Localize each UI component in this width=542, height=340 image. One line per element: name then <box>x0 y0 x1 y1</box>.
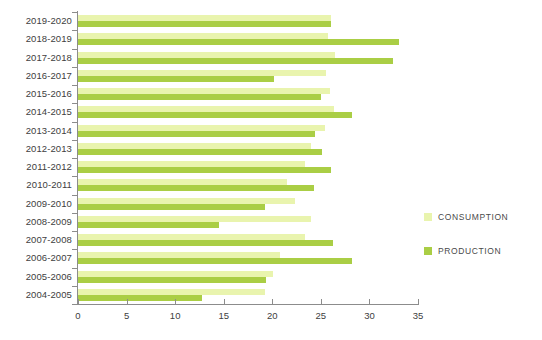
y-axis-label-2008-2009: 2008-2009 <box>0 217 72 227</box>
y-axis-tick <box>72 122 77 123</box>
y-axis-label-2012-2013: 2012-2013 <box>0 144 72 154</box>
y-axis-category-labels: 2019-20202018-20192017-20182016-20172015… <box>0 12 72 304</box>
x-axis-tick <box>321 299 322 305</box>
y-axis-tick <box>72 231 77 232</box>
y-axis-tick <box>72 30 77 31</box>
y-axis-label-2018-2019: 2018-2019 <box>0 34 72 44</box>
x-axis-tick <box>369 299 370 305</box>
legend-item-production[interactable]: PRODUCTION <box>424 246 538 256</box>
y-axis-label-2009-2010: 2009-2010 <box>0 199 72 209</box>
y-axis-tick <box>72 85 77 86</box>
bar-production-2006-2007 <box>78 258 352 264</box>
y-axis-tick <box>72 67 77 68</box>
legend-label-consumption: CONSUMPTION <box>438 212 508 222</box>
x-axis-tick <box>224 299 225 305</box>
y-axis-tick <box>72 213 77 214</box>
x-axis-tick <box>127 299 128 305</box>
x-axis-tick <box>78 299 79 305</box>
bar-production-2018-2019 <box>78 39 399 45</box>
y-axis-tick <box>72 249 77 250</box>
y-axis-label-2015-2016: 2015-2016 <box>0 89 72 99</box>
plot-area <box>78 12 418 304</box>
y-axis-label-2016-2017: 2016-2017 <box>0 71 72 81</box>
y-axis-tick <box>72 158 77 159</box>
bar-chart: 2019-20202018-20192017-20182016-20172015… <box>0 0 542 340</box>
bar-production-2008-2009 <box>78 222 219 228</box>
y-axis-label-2014-2015: 2014-2015 <box>0 107 72 117</box>
y-axis-label-2010-2011: 2010-2011 <box>0 180 72 190</box>
y-axis-tick <box>72 140 77 141</box>
y-axis-tick <box>72 176 77 177</box>
x-axis-tick-label: 20 <box>257 310 287 321</box>
x-axis-tick-label: 5 <box>112 310 142 321</box>
bar-production-2005-2006 <box>78 277 266 283</box>
x-axis-tick-label: 30 <box>354 310 384 321</box>
chart-legend: CONSUMPTION PRODUCTION <box>424 212 538 280</box>
y-axis-tick <box>72 195 77 196</box>
y-axis-label-2007-2008: 2007-2008 <box>0 235 72 245</box>
y-axis-tick <box>72 103 77 104</box>
x-axis-tick-label: 15 <box>209 310 239 321</box>
x-axis-line <box>77 304 419 305</box>
bar-production-2012-2013 <box>78 149 322 155</box>
y-axis-label-2019-2020: 2019-2020 <box>0 16 72 26</box>
legend-label-production: PRODUCTION <box>438 246 501 256</box>
y-axis-tick <box>72 268 77 269</box>
y-axis-label-2013-2014: 2013-2014 <box>0 126 72 136</box>
x-axis-tick <box>175 299 176 305</box>
bar-production-2013-2014 <box>78 131 315 137</box>
y-axis-label-2005-2006: 2005-2006 <box>0 272 72 282</box>
legend-swatch-production-icon <box>424 247 432 255</box>
y-axis-label-2011-2012: 2011-2012 <box>0 162 72 172</box>
bar-production-2014-2015 <box>78 112 352 118</box>
bar-production-2009-2010 <box>78 204 265 210</box>
y-axis-tick <box>72 12 77 13</box>
bar-production-2007-2008 <box>78 240 333 246</box>
bar-production-2019-2020 <box>78 21 331 27</box>
x-axis-tick <box>272 299 273 305</box>
bar-production-2015-2016 <box>78 94 321 100</box>
bar-production-2017-2018 <box>78 58 393 64</box>
bar-production-2004-2005 <box>78 295 202 301</box>
bar-production-2011-2012 <box>78 167 331 173</box>
y-axis-label-2017-2018: 2017-2018 <box>0 53 72 63</box>
bar-production-2016-2017 <box>78 76 274 82</box>
x-axis-tick-label: 35 <box>403 310 433 321</box>
y-axis-tick <box>72 304 77 305</box>
y-axis-tick <box>72 286 77 287</box>
y-axis-label-2006-2007: 2006-2007 <box>0 253 72 263</box>
legend-item-consumption[interactable]: CONSUMPTION <box>424 212 538 222</box>
y-axis-tick <box>72 49 77 50</box>
x-axis-tick-label: 25 <box>306 310 336 321</box>
y-axis-label-2004-2005: 2004-2005 <box>0 290 72 300</box>
bar-production-2010-2011 <box>78 185 314 191</box>
legend-swatch-consumption-icon <box>424 213 432 221</box>
x-axis-tick <box>418 299 419 305</box>
x-axis-tick-label: 10 <box>160 310 190 321</box>
x-axis-tick-label: 0 <box>63 310 93 321</box>
